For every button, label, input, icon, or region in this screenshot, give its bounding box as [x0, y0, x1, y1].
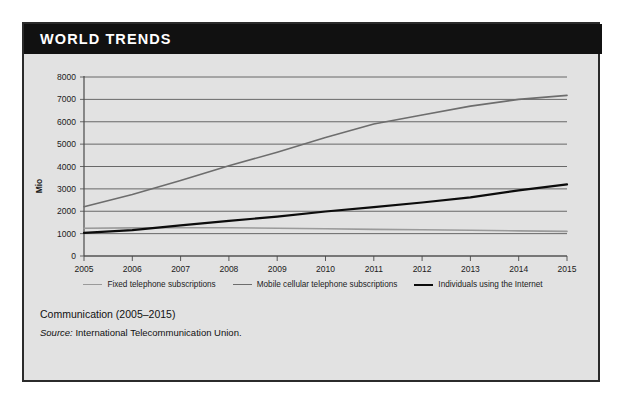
y-tick-label: 6000 [57, 117, 76, 127]
x-tick-label: 2010 [316, 264, 335, 274]
legend-label-fixed: Fixed telephone subscriptions [107, 280, 215, 289]
page-title: WORLD TRENDS [40, 31, 172, 47]
y-tick-label: 3000 [57, 184, 76, 194]
source-text: International Telecommunication Union. [73, 327, 242, 338]
source-line: Source: International Telecommunication … [40, 327, 242, 338]
legend-swatch-fixed-icon [83, 284, 102, 285]
y-tick-label: 4000 [57, 162, 76, 172]
x-tick-label: 2013 [461, 264, 480, 274]
x-tick-label: 2006 [123, 264, 142, 274]
x-tick-label: 2009 [268, 264, 287, 274]
y-axis-title: Mio [34, 179, 44, 194]
legend-label-internet: Individuals using the Internet [438, 280, 542, 289]
x-tick-label: 2005 [75, 264, 94, 274]
y-tick-label: 1000 [57, 229, 76, 239]
legend-label-mobile: Mobile cellular telephone subscriptions [257, 280, 398, 289]
x-tick-label: 2007 [171, 264, 190, 274]
legend-item-mobile: Mobile cellular telephone subscriptions [233, 280, 398, 289]
y-tick-label: 5000 [57, 139, 76, 149]
title-banner: WORLD TRENDS [24, 24, 602, 54]
legend-item-fixed: Fixed telephone subscriptions [83, 280, 215, 289]
series-lines [84, 95, 567, 233]
x-tick-label: 2014 [509, 264, 528, 274]
x-tick-label: 2015 [558, 264, 577, 274]
chart-card: WORLD TRENDS 010002000300040005000600070… [22, 22, 600, 382]
x-tick-labels: 2005200620072008200920102011201220132014… [75, 256, 577, 274]
y-tick-label: 8000 [57, 72, 76, 82]
y-tick-labels: 010002000300040005000600070008000 [57, 72, 76, 261]
chart-caption: Communication (2005–2015) [40, 308, 175, 320]
x-tick-label: 2011 [365, 264, 384, 274]
y-tick-label: 0 [71, 251, 76, 261]
y-tick-label: 7000 [57, 94, 76, 104]
series-line-1 [84, 95, 567, 206]
legend-swatch-internet-icon [414, 284, 433, 286]
series-line-2 [84, 184, 567, 233]
source-word: Source: [40, 327, 73, 338]
y-tick-label: 2000 [57, 206, 76, 216]
x-tick-label: 2012 [413, 264, 432, 274]
legend-swatch-mobile-icon [233, 284, 252, 285]
chart-legend: Fixed telephone subscriptions Mobile cel… [24, 280, 602, 289]
legend-item-internet: Individuals using the Internet [414, 280, 542, 289]
line-chart: 010002000300040005000600070008000 200520… [24, 54, 602, 310]
x-tick-label: 2008 [219, 264, 238, 274]
